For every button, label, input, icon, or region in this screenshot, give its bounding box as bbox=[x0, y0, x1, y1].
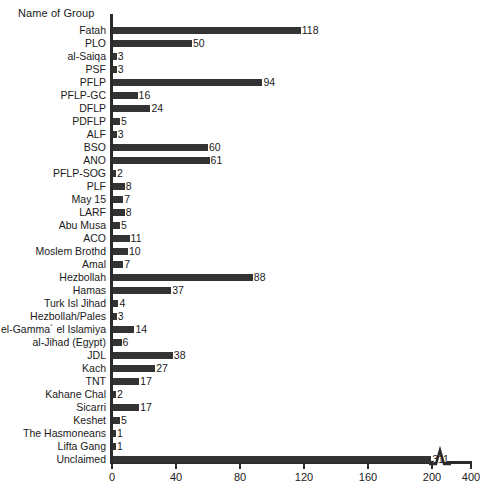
bar-value-label: 88 bbox=[254, 272, 266, 283]
category-label: al-Jihad (Egypt) bbox=[32, 337, 106, 348]
bar-value-label: 38 bbox=[174, 350, 186, 361]
category-label: Turk Isl Jihad bbox=[44, 298, 106, 309]
bar-value-label: 17 bbox=[140, 402, 152, 413]
bar bbox=[113, 183, 125, 190]
category-label: Kahane Chal bbox=[45, 389, 106, 400]
category-label: ACO bbox=[83, 233, 106, 244]
category-label: Hezbollah/Pales bbox=[30, 311, 106, 322]
category-label: PFLP bbox=[80, 77, 106, 88]
bar-row: Sicarri17 bbox=[0, 403, 478, 414]
category-label: Kach bbox=[82, 363, 106, 374]
bar-row: Abu Musa5 bbox=[0, 221, 478, 232]
bar bbox=[113, 170, 116, 177]
bar-value-label: 94 bbox=[263, 77, 275, 88]
bar-value-label: 14 bbox=[135, 324, 147, 335]
bar-value-label: 61 bbox=[211, 155, 223, 166]
bar bbox=[113, 430, 116, 437]
category-label: LARF bbox=[79, 207, 106, 218]
bar-value-label: 2 bbox=[117, 389, 123, 400]
x-tick-label-400: 400 bbox=[462, 471, 480, 483]
bar bbox=[113, 326, 134, 333]
bar-value-label: 10 bbox=[129, 246, 141, 257]
bar-value-label: 7 bbox=[124, 259, 130, 270]
bar-row: DFLP24 bbox=[0, 104, 478, 115]
bar-value-label: 5 bbox=[121, 116, 127, 127]
bar bbox=[113, 27, 301, 34]
bar bbox=[113, 79, 262, 86]
bar-row: PFLP-SOG2 bbox=[0, 169, 478, 180]
x-tick-label-120: 120 bbox=[295, 471, 313, 483]
bar-value-label: 118 bbox=[302, 25, 319, 36]
bar-row: Keshet5 bbox=[0, 416, 478, 427]
bar-row: Hamas37 bbox=[0, 286, 478, 297]
bar-value-label: 24 bbox=[151, 103, 163, 114]
bar bbox=[113, 417, 120, 424]
bar bbox=[113, 66, 117, 73]
bar-value-label: 1 bbox=[117, 428, 123, 439]
bar-value-label: 60 bbox=[209, 142, 221, 153]
bar bbox=[113, 144, 208, 151]
category-label: Sicarri bbox=[76, 402, 106, 413]
bar-value-label: 1 bbox=[117, 441, 123, 452]
bar bbox=[113, 53, 117, 60]
category-label: JDL bbox=[87, 350, 106, 361]
bar-value-label: 17 bbox=[140, 376, 152, 387]
category-label: Amal bbox=[82, 259, 106, 270]
bar-row: Kahane Chal2 bbox=[0, 390, 478, 401]
category-label: Abu Musa bbox=[59, 220, 106, 231]
bar-row: Moslem Brothd10 bbox=[0, 247, 478, 258]
x-tick-label-0: 0 bbox=[109, 471, 115, 483]
bar-value-label: 5 bbox=[121, 220, 127, 231]
bar-row: LARF8 bbox=[0, 208, 478, 219]
bar-value-label: 50 bbox=[193, 38, 205, 49]
bar bbox=[113, 352, 173, 359]
bar bbox=[113, 196, 123, 203]
x-tick-label-40: 40 bbox=[170, 471, 182, 483]
bar bbox=[113, 209, 125, 216]
category-label: Lifta Gang bbox=[58, 441, 106, 452]
bar bbox=[113, 40, 192, 47]
bar-row: PLO50 bbox=[0, 39, 478, 50]
bar bbox=[113, 222, 120, 229]
bar bbox=[113, 339, 122, 346]
bar bbox=[113, 274, 253, 281]
bar-value-label: 4 bbox=[119, 298, 125, 309]
bar-row: el-Gamma´ el Islamiya14 bbox=[0, 325, 478, 336]
bar bbox=[113, 443, 116, 450]
category-label: Unclaimed bbox=[56, 454, 106, 465]
bar-row: PFLP-GC16 bbox=[0, 91, 478, 102]
category-label: PDFLP bbox=[72, 116, 106, 127]
bar-row: Turk Isl Jihad4 bbox=[0, 299, 478, 310]
bar bbox=[113, 365, 155, 372]
bar bbox=[113, 378, 139, 385]
category-label: Keshet bbox=[73, 415, 106, 426]
bar-row: PDFLP5 bbox=[0, 117, 478, 128]
bar-value-label: 3 bbox=[118, 51, 124, 62]
bar-row: JDL38 bbox=[0, 351, 478, 362]
bar-row: May 157 bbox=[0, 195, 478, 206]
category-label: TNT bbox=[86, 376, 106, 387]
category-label: PSF bbox=[86, 64, 106, 75]
bar-row: ALF3 bbox=[0, 130, 478, 141]
bar bbox=[113, 92, 138, 99]
bar-value-label: 5 bbox=[121, 415, 127, 426]
bar-value-label: 311 bbox=[432, 454, 449, 465]
bar-value-label: 3 bbox=[118, 64, 124, 75]
bar-value-label: 3 bbox=[118, 311, 124, 322]
category-label: PLF bbox=[87, 181, 106, 192]
category-label: Fatah bbox=[79, 25, 106, 36]
bar-row: PLF8 bbox=[0, 182, 478, 193]
bar-value-label: 7 bbox=[124, 194, 130, 205]
category-label: The Hasmoneans bbox=[23, 428, 106, 439]
bar bbox=[113, 313, 117, 320]
bar-row: Hezbollah/Pales3 bbox=[0, 312, 478, 323]
bar-row: PFLP94 bbox=[0, 78, 478, 89]
bar-value-label: 6 bbox=[123, 337, 129, 348]
bar-row: BSO60 bbox=[0, 143, 478, 154]
x-tick-label-80: 80 bbox=[234, 471, 246, 483]
category-label: Hamas bbox=[73, 285, 106, 296]
bar bbox=[113, 118, 120, 125]
bar bbox=[113, 456, 431, 463]
bar-row: The Hasmoneans1 bbox=[0, 429, 478, 440]
